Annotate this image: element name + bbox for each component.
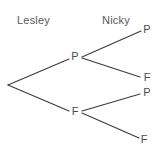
edge-group <box>8 31 141 138</box>
node-lesley-pass: P <box>69 50 81 62</box>
tree-edge <box>82 58 140 77</box>
tree-edge <box>8 85 69 111</box>
column-header-nicky: Nicky <box>102 14 130 26</box>
node-nicky-fail-after-fail: F <box>138 133 150 145</box>
tree-edge <box>8 59 69 85</box>
column-header-lesley: Lesley <box>17 14 50 26</box>
tree-edge <box>82 31 141 57</box>
node-nicky-fail-after-pass: F <box>141 71 153 83</box>
tree-diagram-canvas: Lesley Nicky P F P F P F <box>0 0 165 159</box>
node-nicky-pass-after-pass: P <box>141 23 153 35</box>
tree-edge <box>82 113 139 138</box>
node-nicky-pass-after-fail: P <box>141 86 153 98</box>
tree-edge <box>82 94 140 111</box>
node-lesley-fail: F <box>69 105 81 117</box>
